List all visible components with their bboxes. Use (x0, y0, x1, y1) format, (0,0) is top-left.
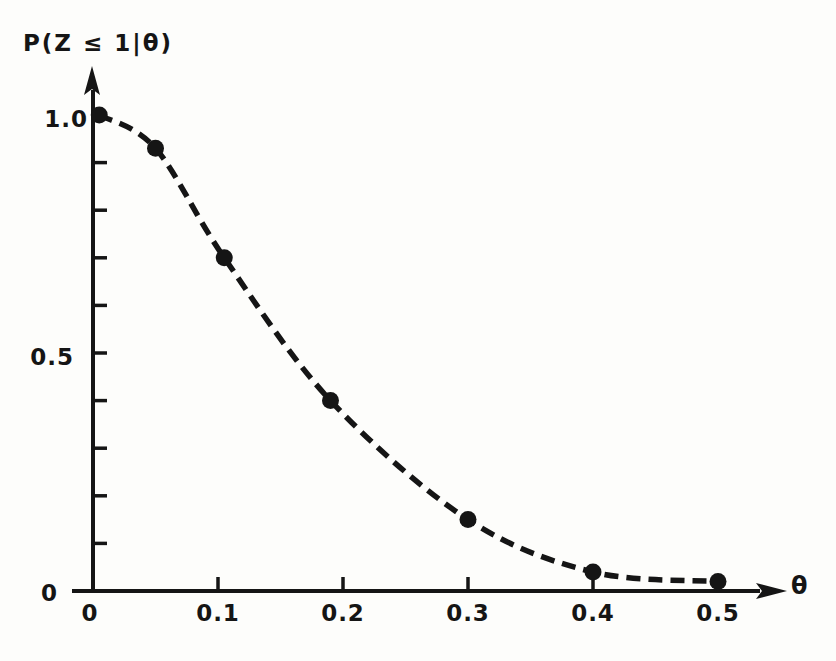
y-tick-label: 0.5 (30, 344, 74, 370)
figure: 0.10.20.30.40.50.51.000 P(Z ≤ 1|θ) θ (0, 0, 836, 661)
data-point (585, 563, 602, 580)
y-axis-title: P(Z ≤ 1|θ) (23, 30, 173, 56)
data-point (147, 140, 164, 157)
data-point (91, 107, 108, 124)
y-tick-label: 1.0 (44, 106, 88, 132)
data-point (460, 511, 477, 528)
data-point (322, 392, 339, 409)
data-curve (99, 115, 718, 582)
x-axis-title: θ (791, 572, 808, 600)
x-tick-label: 0.1 (196, 600, 240, 626)
data-point (710, 573, 727, 590)
x-tick-label: 0.5 (696, 600, 740, 626)
x-origin-label: 0 (81, 600, 98, 626)
x-axis-arrow-icon (756, 583, 787, 599)
chart-canvas: 0.10.20.30.40.50.51.000 (0, 0, 836, 661)
x-tick-label: 0.2 (321, 600, 365, 626)
data-point (216, 249, 233, 266)
x-tick-label: 0.4 (571, 600, 615, 626)
x-tick-label: 0.3 (446, 600, 490, 626)
y-origin-label: 0 (41, 580, 58, 606)
